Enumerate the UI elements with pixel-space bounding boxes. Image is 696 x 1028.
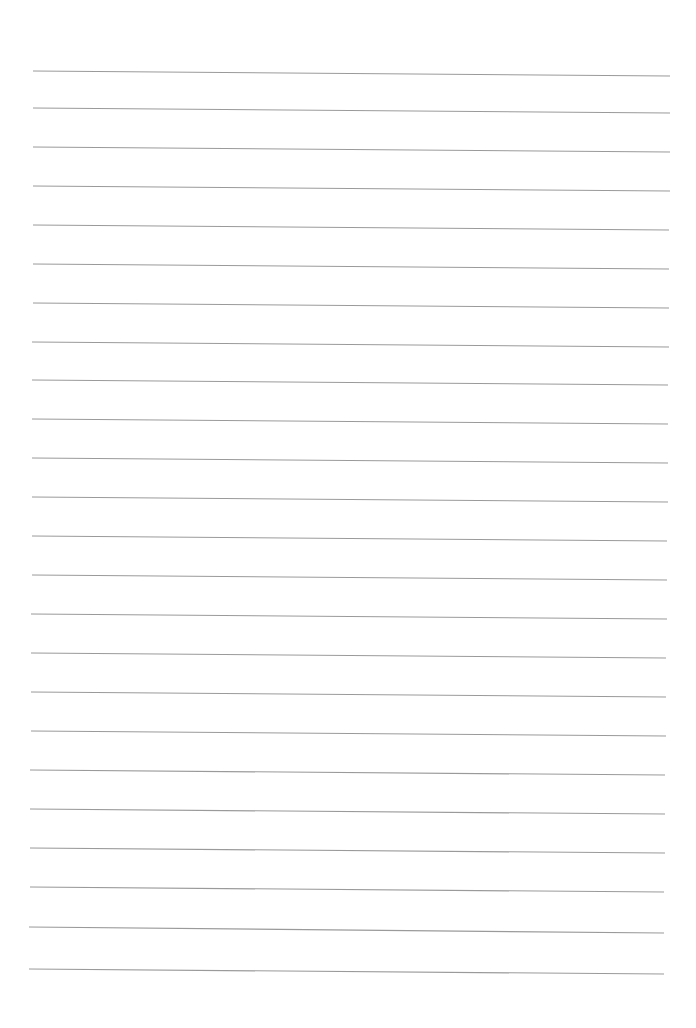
ruled-line	[32, 536, 667, 541]
ruled-line	[32, 419, 668, 424]
lined-paper-sheet	[0, 0, 696, 1028]
ruled-line	[31, 653, 666, 658]
ruled-line	[29, 927, 664, 933]
ruled-line	[33, 225, 669, 230]
ruled-line	[33, 147, 670, 152]
ruled-line	[29, 969, 664, 974]
ruled-line	[32, 380, 668, 385]
ruled-line	[30, 887, 664, 892]
ruled-line	[33, 303, 669, 308]
ruled-line	[33, 71, 670, 76]
ruled-line	[31, 614, 667, 619]
ruled-line	[32, 458, 668, 463]
ruled-line	[30, 770, 665, 775]
ruled-line	[31, 692, 666, 697]
ruled-line	[33, 264, 669, 269]
ruled-line	[33, 108, 670, 113]
ruled-line	[30, 848, 665, 853]
ruled-line	[30, 809, 665, 814]
ruled-line	[31, 731, 666, 736]
ruled-line	[32, 575, 667, 580]
ruled-line	[33, 186, 670, 191]
ruled-line	[32, 342, 669, 347]
ruled-lines	[0, 0, 696, 1028]
ruled-line	[32, 497, 668, 502]
